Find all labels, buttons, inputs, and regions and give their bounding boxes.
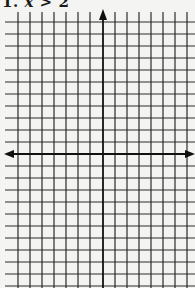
y-axis-up-arrow-icon [99, 9, 107, 20]
x-axis-right-arrow-icon [185, 150, 195, 158]
axes [4, 9, 195, 288]
grid-lines [5, 12, 195, 288]
x-axis-left-arrow-icon [4, 150, 14, 158]
coordinate-grid [0, 0, 195, 288]
